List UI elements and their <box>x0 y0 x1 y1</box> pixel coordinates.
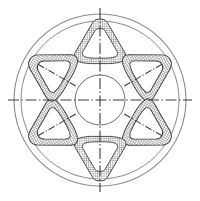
technical-drawing-canvas <box>0 0 200 201</box>
wheel-cross-section-drawing <box>0 0 200 201</box>
